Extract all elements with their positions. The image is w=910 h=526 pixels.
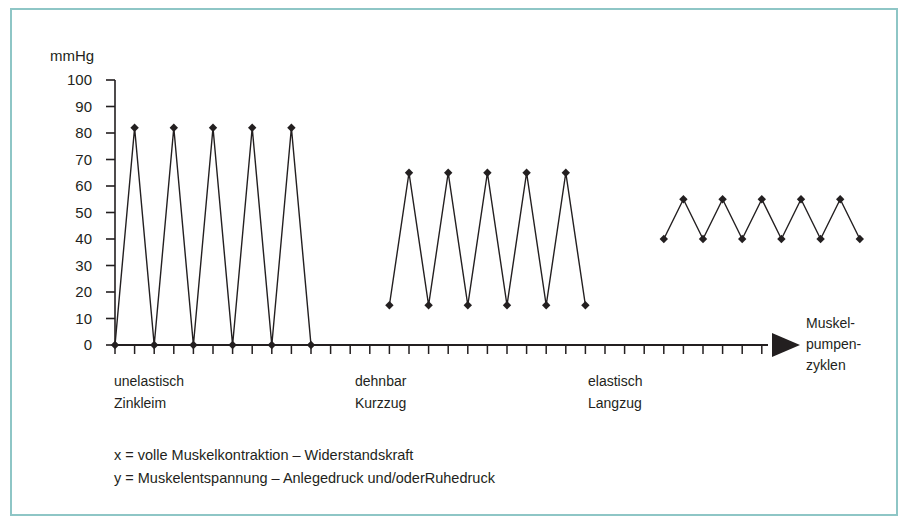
data-point-marker (170, 124, 178, 132)
data-point-marker (150, 341, 158, 349)
series-line (389, 173, 585, 306)
data-point-marker (562, 169, 570, 177)
data-series (385, 169, 589, 310)
data-point-marker (679, 195, 687, 203)
x-axis-label-line: zyklen (806, 355, 861, 376)
data-point-marker (464, 301, 472, 309)
data-point-marker (385, 301, 393, 309)
data-series (660, 195, 864, 243)
data-point-marker (797, 195, 805, 203)
data-point-marker (699, 235, 707, 243)
legend-line-x: x = volle Muskelkontraktion – Widerstand… (114, 447, 413, 463)
data-point-marker (503, 301, 511, 309)
category-label-line1: elastisch (588, 371, 642, 393)
category-label: unelastischZinkleim (114, 371, 184, 414)
data-point-marker (581, 301, 589, 309)
category-label: dehnbarKurzzug (355, 371, 406, 414)
data-point-marker (738, 235, 746, 243)
category-label-line2: Langzug (588, 393, 642, 415)
data-point-marker (287, 124, 295, 132)
data-point-marker (405, 169, 413, 177)
x-axis-label-line: pumpen- (806, 334, 861, 355)
data-point-marker (307, 341, 315, 349)
category-label: elastischLangzug (588, 371, 642, 414)
x-axis-label: Muskel-pumpen-zyklen (806, 313, 861, 376)
data-point-marker (483, 169, 491, 177)
data-point-marker (816, 235, 824, 243)
data-point-marker (444, 169, 452, 177)
data-point-marker (522, 169, 530, 177)
series-line (664, 199, 860, 239)
data-point-marker (718, 195, 726, 203)
category-label-line1: dehnbar (355, 371, 406, 393)
data-point-marker (209, 124, 217, 132)
data-point-marker (130, 124, 138, 132)
x-axis-label-line: Muskel- (806, 313, 861, 334)
data-point-marker (228, 341, 236, 349)
data-point-marker (424, 301, 432, 309)
data-point-marker (248, 124, 256, 132)
category-label-line2: Kurzzug (355, 393, 406, 415)
data-point-marker (836, 195, 844, 203)
data-point-marker (268, 341, 276, 349)
category-label-line1: unelastisch (114, 371, 184, 393)
data-point-marker (856, 235, 864, 243)
data-point-marker (660, 235, 668, 243)
chart-figure: mmHg 1009080706050403020100 unelastischZ… (0, 0, 910, 526)
data-point-marker (777, 235, 785, 243)
series-line (115, 128, 311, 345)
data-point-marker (189, 341, 197, 349)
legend-line-y: y = Muskelentspannung – Anlegedruck und/… (114, 470, 495, 486)
x-axis-arrow-icon (772, 333, 800, 357)
data-point-marker (542, 301, 550, 309)
category-label-line2: Zinkleim (114, 393, 184, 415)
data-point-marker (758, 195, 766, 203)
data-point-marker (111, 341, 119, 349)
data-series (111, 124, 315, 350)
